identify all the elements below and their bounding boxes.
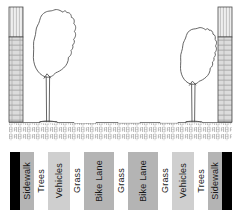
legend-zone-right-edge[interactable] (222, 152, 232, 210)
legend-zone-label: Grass (73, 168, 82, 193)
legend-zone-label: Sidewalk (23, 162, 32, 200)
right-building (218, 7, 232, 122)
legend-zone-sidewalk-right[interactable]: Sidewalk (208, 152, 222, 210)
legend-zone-label: Trees (197, 169, 206, 193)
legend-zone-label: Bike Lane (95, 160, 104, 202)
legend-zone-grass-center-left[interactable]: Grass (114, 152, 128, 210)
street-cross-section (0, 0, 242, 148)
legend-zone-label: Grass (117, 168, 126, 193)
zone-legend: Sidewalk Trees Vehicles Grass Bike Lane … (10, 152, 232, 210)
legend-zone-trees-left[interactable]: Trees (34, 152, 48, 210)
legend-zone-bike-lane-right[interactable]: Bike Lane (128, 152, 158, 210)
legend-zone-label: Vehicles (55, 163, 64, 198)
legend-zone-vehicles-right[interactable]: Vehicles (172, 152, 194, 210)
legend-zone-left-edge[interactable] (10, 152, 20, 210)
legend-zone-vehicles-left[interactable]: Vehicles (48, 152, 70, 210)
diagram-canvas: Sidewalk Trees Vehicles Grass Bike Lane … (0, 0, 242, 220)
left-building (9, 7, 23, 122)
legend-zone-grass-right-outer[interactable]: Grass (158, 152, 172, 210)
left-tree (33, 10, 75, 123)
legend-zone-trees-right[interactable]: Trees (194, 152, 208, 210)
legend-zone-label: Vehicles (179, 163, 188, 198)
legend-zone-label: Trees (37, 169, 46, 193)
ground-surface (9, 122, 232, 141)
legend-zone-sidewalk-left[interactable]: Sidewalk (20, 152, 34, 210)
right-tree (180, 28, 216, 123)
legend-zone-label: Grass (161, 168, 170, 193)
legend-zone-label: Sidewalk (211, 162, 220, 200)
legend-zone-grass-left-outer[interactable]: Grass (70, 152, 84, 210)
legend-zone-bike-lane-left[interactable]: Bike Lane (84, 152, 114, 210)
legend-zone-label: Bike Lane (139, 160, 148, 202)
